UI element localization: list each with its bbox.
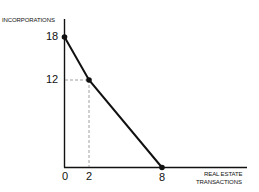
y-tick-12: 12 xyxy=(46,73,58,85)
point-8-0 xyxy=(159,165,165,171)
y-axis-title: INCORPORATIONS xyxy=(2,17,55,23)
chart-canvas xyxy=(0,0,259,192)
x-tick-0: 0 xyxy=(62,170,68,182)
point-2-12 xyxy=(86,77,92,83)
x-axis-title-line1: REAL ESTATE xyxy=(204,171,242,177)
frontier-line xyxy=(65,37,163,168)
y-tick-18: 18 xyxy=(46,30,58,42)
x-tick-8: 8 xyxy=(159,171,165,183)
x-tick-2: 2 xyxy=(86,170,92,182)
point-0-18 xyxy=(62,34,68,40)
x-axis-title-line2: TRANSACTIONS xyxy=(196,179,242,185)
